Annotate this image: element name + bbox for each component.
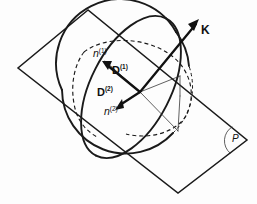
construction-line-c [140,92,178,131]
vector-D2 [115,92,140,110]
plane-angle-arc [224,127,232,153]
figure-canvas: K D(1) D(2) n(1) n(2) P [0,0,257,204]
label-displacement-1: D(1) [112,65,128,76]
label-D1-superscript: (1) [120,63,128,70]
label-n2-superscript: (2) [110,105,118,112]
label-wave-vector-K: K [201,24,210,36]
sphere-arc-upper-left [56,0,176,90]
angle-arc-path [224,127,232,153]
label-displacement-2: D(2) [97,87,113,98]
hidden-arc-lower [126,116,186,136]
section-ellipse [60,0,201,174]
sphere-arc-hidden-right [173,66,193,133]
label-plane-P: P [232,134,239,144]
wave-normal-plane [18,10,247,193]
label-n1-superscript: (1) [99,47,107,54]
vector-D2-shaft [120,92,140,105]
vector-K-arrowhead [188,19,199,31]
label-index-2: n(2) [104,106,118,117]
label-D2-base: D [97,86,105,98]
label-index-1: n(1) [93,48,107,59]
diagram-svg [0,0,257,204]
label-D1-base: D [112,64,120,76]
plane-outline [18,10,247,193]
vector-K [140,19,199,92]
label-D2-superscript: (2) [105,85,113,92]
